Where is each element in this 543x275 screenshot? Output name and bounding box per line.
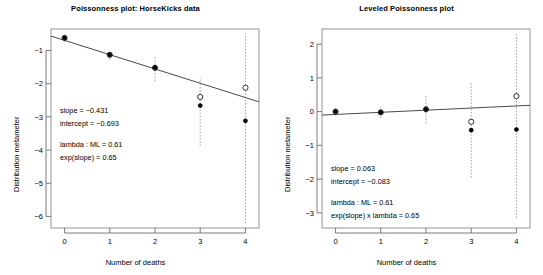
y-tick-label: −6 bbox=[34, 212, 43, 221]
panel-left-poissonness-plot: Poissonness plot: HorseKicks data −1−2−3… bbox=[0, 0, 271, 275]
data-point-open bbox=[469, 119, 474, 124]
x-tick-label: 4 bbox=[514, 237, 518, 246]
annotation-line: slope = 0.063 bbox=[331, 164, 375, 173]
y-tick-label: −3 bbox=[305, 209, 314, 218]
data-point-filled bbox=[469, 128, 473, 132]
data-point-filled bbox=[198, 104, 202, 108]
panel-left-y-axis-label: Distribution metameter bbox=[12, 117, 21, 192]
panel-right-leveled-plot: Leveled Poissonness plot 210−1−2−301234s… bbox=[271, 0, 542, 275]
data-point-filled bbox=[424, 107, 428, 111]
x-tick-label: 4 bbox=[243, 237, 247, 246]
y-tick-label: 1 bbox=[310, 74, 314, 83]
y-tick-label: −1 bbox=[34, 46, 43, 55]
annotation-line: exp(slope) = 0.65 bbox=[60, 153, 117, 162]
x-tick-label: 3 bbox=[198, 237, 202, 246]
panel-right-x-axis-label: Number of deaths bbox=[271, 258, 542, 267]
data-point-filled bbox=[243, 119, 247, 123]
x-tick-label: 0 bbox=[333, 237, 337, 246]
x-tick-label: 1 bbox=[379, 237, 383, 246]
y-tick-label: −1 bbox=[305, 141, 314, 150]
annotation-line: intercept = −0.693 bbox=[60, 119, 119, 128]
data-point-filled bbox=[514, 127, 518, 131]
x-tick-label: 2 bbox=[153, 237, 157, 246]
x-tick-label: 3 bbox=[469, 237, 473, 246]
y-tick-label: −4 bbox=[34, 146, 43, 155]
annotation-line: intercept = −0.083 bbox=[331, 177, 390, 186]
annotation-line: slope = −0.431 bbox=[60, 106, 108, 115]
y-tick-label: −5 bbox=[34, 179, 43, 188]
panel-right-y-axis-label: Distribution metameter bbox=[283, 117, 292, 192]
annotation-line: lambda : ML = 0.61 bbox=[60, 140, 122, 149]
y-tick-label: 2 bbox=[310, 40, 314, 49]
data-point-open bbox=[514, 94, 519, 99]
y-tick-label: −2 bbox=[305, 175, 314, 184]
data-point-open bbox=[198, 94, 203, 99]
x-tick-label: 1 bbox=[108, 237, 112, 246]
plot-frame bbox=[51, 29, 259, 228]
panel-left-x-axis-label: Number of deaths bbox=[0, 258, 271, 267]
plot-content bbox=[322, 34, 530, 218]
panel-right-plot-area: 210−1−2−301234slope = 0.063intercept = −… bbox=[271, 0, 542, 275]
annotation-line: lambda : ML = 0.61 bbox=[331, 198, 393, 207]
data-point-filled bbox=[153, 66, 157, 70]
data-point-filled bbox=[62, 36, 66, 40]
x-tick-label: 0 bbox=[62, 237, 66, 246]
annotation-line: exp(slope) x lambda = 0.65 bbox=[331, 211, 419, 220]
panel-left-plot-area: −1−2−3−4−5−601234slope = −0.431intercept… bbox=[0, 0, 271, 275]
y-tick-label: −3 bbox=[34, 113, 43, 122]
plot-content bbox=[51, 33, 259, 223]
y-tick-label: −2 bbox=[34, 79, 43, 88]
x-tick-label: 2 bbox=[424, 237, 428, 246]
data-point-filled bbox=[379, 110, 383, 114]
data-point-filled bbox=[333, 110, 337, 114]
data-point-filled bbox=[108, 53, 112, 57]
data-point-open bbox=[243, 85, 248, 90]
poissonness-figure: Poissonness plot: HorseKicks data −1−2−3… bbox=[0, 0, 543, 275]
y-tick-label: 0 bbox=[310, 107, 314, 116]
